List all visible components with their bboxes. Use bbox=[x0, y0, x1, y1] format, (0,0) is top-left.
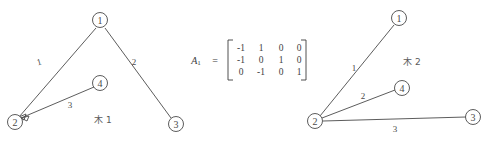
matrix-name-subscript: 1 bbox=[197, 59, 201, 67]
tree-right: 1 2 3 4 1 2 3 木 2 bbox=[308, 11, 481, 135]
matrix-equals-sign: = bbox=[212, 55, 218, 66]
matrix-cell-r1c0: -1 bbox=[237, 55, 245, 65]
tree-left-edges bbox=[19, 28, 171, 121]
node-left-1-label: 1 bbox=[98, 15, 103, 26]
node-right-1-label: 1 bbox=[397, 13, 402, 24]
edge-right-2-3 bbox=[323, 117, 466, 121]
tree-right-caption: 木 2 bbox=[403, 56, 421, 67]
matrix-right-bracket bbox=[301, 40, 306, 80]
edge-label-right-2: 2 bbox=[361, 91, 366, 101]
matrix-cell-r1c2: 1 bbox=[279, 55, 284, 65]
edge-right-2-4 bbox=[322, 90, 395, 118]
tree-right-nodes: 1 2 3 4 bbox=[308, 11, 481, 129]
matrix-cell-r0c1: 1 bbox=[259, 43, 264, 53]
tree-right-edges bbox=[320, 25, 466, 121]
matrix-cell-r2c3: 1 bbox=[297, 67, 302, 77]
edge-label-left-2: 2 bbox=[132, 57, 137, 67]
tree-right-edge-labels: 1 2 3 bbox=[352, 63, 398, 134]
edge-left-1-3 bbox=[105, 28, 171, 118]
node-left-2-label: 2 bbox=[13, 117, 18, 128]
matrix-cell-r1c3: 0 bbox=[297, 55, 302, 65]
tree-left: 1 2 3 4 1 2 3 木 1 bbox=[8, 13, 184, 132]
matrix-name: A1 bbox=[190, 55, 201, 68]
graph-figure: 1 2 3 4 1 2 3 木 1 A1 = -1 1 0 0 bbox=[0, 0, 492, 143]
edge-label-left-3: 3 bbox=[68, 100, 73, 110]
tree-left-caption: 木 1 bbox=[94, 114, 112, 125]
matrix-cell-r0c2: 0 bbox=[279, 43, 284, 53]
edge-label-left-1: 1 bbox=[35, 57, 42, 68]
edge-label-right-3: 3 bbox=[393, 124, 398, 134]
node-right-2-label: 2 bbox=[313, 116, 318, 127]
matrix-cell-r0c3: 0 bbox=[297, 43, 302, 53]
tree-left-nodes: 1 2 3 4 bbox=[8, 13, 184, 132]
tree-left-edge-labels: 1 2 3 bbox=[35, 57, 136, 110]
matrix-row: 0 -1 0 1 bbox=[239, 67, 302, 77]
matrix-cell-r2c2: 0 bbox=[279, 67, 284, 77]
edge-label-right-1: 1 bbox=[352, 63, 357, 73]
matrix-cell-r2c1: -1 bbox=[257, 67, 265, 77]
node-right-3-label: 3 bbox=[471, 112, 476, 123]
matrix-row: -1 1 0 0 bbox=[237, 43, 302, 53]
node-left-4-label: 4 bbox=[98, 78, 103, 89]
matrix-equation: A1 = -1 1 0 0 -1 0 1 0 0 -1 0 1 bbox=[190, 40, 306, 80]
edge-right-2-1 bbox=[320, 25, 394, 116]
matrix-left-bracket bbox=[228, 40, 233, 80]
matrix-row: -1 0 1 0 bbox=[237, 55, 302, 65]
edge-left-1-2 bbox=[19, 28, 96, 117]
matrix-cell-r0c0: -1 bbox=[237, 43, 245, 53]
matrix-cell-r1c1: 0 bbox=[259, 55, 264, 65]
node-left-3-label: 3 bbox=[174, 119, 179, 130]
matrix-cell-r2c0: 0 bbox=[239, 67, 244, 77]
node-right-4-label: 4 bbox=[400, 83, 405, 94]
